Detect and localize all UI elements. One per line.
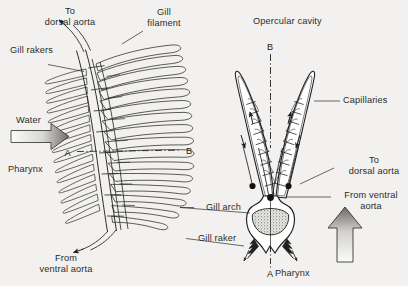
label-gill-raker: Gill raker [198, 233, 236, 244]
right-section-letter-a: A [267, 269, 274, 279]
label-opercular-cavity: Opercular cavity [253, 16, 322, 27]
afferent-vessel-midline [267, 194, 274, 201]
label-pharynx-right: Pharynx [275, 268, 310, 279]
left-section-letter-b: B [186, 146, 192, 156]
efferent-vessel-left [249, 183, 255, 189]
right-section-letter-b: B [267, 42, 273, 52]
label-to-dorsal-aorta-left: To dorsal aorta [28, 6, 112, 28]
label-to-dorsal-aorta-right: To dorsal aorta [340, 155, 408, 177]
label-gill-arch: Gill arch [206, 202, 241, 213]
label-gill-rakers: Gill rakers [10, 45, 53, 56]
label-gill-filament: Gill filament [136, 7, 192, 29]
label-capillaries: Capillaries [343, 95, 388, 106]
label-from-ventral-aorta-right: From ventral aorta [334, 190, 408, 212]
label-from-ventral-aorta-left: From ventral aorta [20, 253, 112, 275]
label-pharynx-left: Pharynx [8, 164, 43, 175]
left-section-letter-a: A [65, 148, 72, 158]
efferent-vessel-right [285, 183, 291, 189]
label-water-left: Water [16, 115, 41, 126]
